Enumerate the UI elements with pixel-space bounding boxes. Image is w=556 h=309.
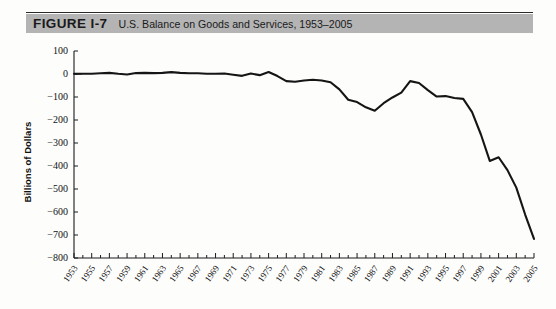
- y-tick-label: 0: [63, 68, 68, 79]
- x-tick-label: 1999: [468, 263, 487, 284]
- y-axis-title: Billions of Dollars: [22, 122, 33, 203]
- x-tick-label: 1981: [309, 263, 328, 283]
- x-tick-label: 1965: [167, 263, 186, 284]
- x-tick-label: 1997: [450, 263, 469, 284]
- x-tick-label: 1977: [273, 263, 292, 284]
- x-tick-label: 1969: [203, 263, 222, 284]
- x-tick-label: 1991: [397, 263, 416, 283]
- y-tick-label: −400: [47, 160, 68, 171]
- x-tick-label: 1993: [415, 263, 434, 284]
- chart-plot-area: 1000−100−200−300−400−500−600−700−800 195…: [0, 0, 556, 309]
- x-tick-label: 1953: [61, 263, 80, 284]
- line-chart-svg: 1000−100−200−300−400−500−600−700−800 195…: [0, 0, 556, 309]
- x-tick-label: 1971: [220, 263, 239, 283]
- y-tick-label: −300: [47, 137, 68, 148]
- x-tick-label: 1963: [150, 263, 169, 284]
- x-axis-tick-labels: 1953195519571959196119631965196719691971…: [61, 263, 540, 284]
- x-tick-label: 1961: [132, 263, 151, 283]
- x-tick-label: 2005: [521, 263, 540, 284]
- y-tick-label: 100: [53, 45, 68, 56]
- y-tick-label: −800: [47, 252, 68, 263]
- y-axis-ticks: [74, 51, 78, 258]
- y-tick-label: −700: [47, 229, 68, 240]
- x-tick-label: 1959: [114, 263, 133, 284]
- x-tick-label: 1995: [433, 263, 452, 284]
- y-axis-tick-labels: 1000−100−200−300−400−500−600−700−800: [47, 45, 68, 263]
- y-tick-label: −600: [47, 206, 68, 217]
- y-tick-label: −500: [47, 183, 68, 194]
- x-tick-label: 1967: [185, 263, 204, 284]
- x-tick-label: 1985: [344, 263, 363, 284]
- x-tick-label: 1957: [97, 263, 116, 284]
- x-tick-label: 2001: [486, 263, 505, 283]
- y-tick-label: −200: [47, 114, 68, 125]
- x-tick-label: 2003: [503, 263, 522, 284]
- y-tick-label: −100: [47, 91, 68, 102]
- balance-series-line: [74, 72, 534, 239]
- x-tick-label: 1979: [291, 263, 310, 284]
- x-tick-label: 1983: [327, 263, 346, 284]
- figure-container: FIGURE I-7 U.S. Balance on Goods and Ser…: [0, 0, 556, 309]
- x-tick-label: 1989: [380, 263, 399, 284]
- x-tick-label: 1955: [79, 263, 98, 284]
- x-tick-label: 1987: [362, 263, 381, 284]
- x-axis-ticks: [74, 253, 534, 258]
- x-tick-label: 1975: [256, 263, 275, 284]
- x-tick-label: 1973: [238, 263, 257, 284]
